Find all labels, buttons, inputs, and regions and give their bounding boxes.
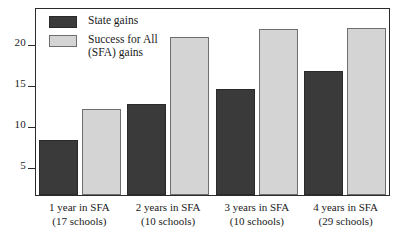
y-axis: 20 15 10 5 xyxy=(0,0,35,196)
x-axis-label: 2 years in SFA (10 schools) xyxy=(124,200,213,228)
bar-state-gains xyxy=(127,104,166,195)
bar-sfa-gains xyxy=(82,109,121,195)
y-tick-label: 5 xyxy=(20,160,26,171)
legend-item-state-gains: State gains xyxy=(49,14,219,28)
bar-sfa-gains xyxy=(259,29,298,195)
chart-legend: State gains Success for All (SFA) gains xyxy=(49,14,219,64)
bar-state-gains xyxy=(39,140,78,195)
y-tick-label: 15 xyxy=(15,78,26,89)
y-tick-mark xyxy=(28,127,35,128)
bar-group xyxy=(213,9,301,195)
bar-state-gains xyxy=(216,89,255,195)
y-tick-mark xyxy=(28,45,35,46)
x-axis-label: 3 years in SFA (10 schools) xyxy=(213,200,302,228)
bar-sfa-gains xyxy=(347,28,386,195)
legend-item-sfa-gains: Success for All (SFA) gains xyxy=(49,33,219,59)
legend-label: Success for All (SFA) gains xyxy=(88,33,158,59)
y-tick-mark xyxy=(28,168,35,169)
light-swatch-icon xyxy=(49,35,77,47)
x-axis-label: 1 year in SFA (17 schools) xyxy=(35,200,124,228)
bar-chart-figure: 20 15 10 5 State gains Success for All (… xyxy=(0,0,397,238)
y-tick-label: 10 xyxy=(15,119,26,130)
x-axis-labels: 1 year in SFA (17 schools)2 years in SFA… xyxy=(35,200,390,236)
bar-state-gains xyxy=(304,71,343,195)
y-tick-label: 20 xyxy=(15,37,26,48)
legend-label: State gains xyxy=(88,14,138,27)
x-axis-label: 4 years in SFA (29 schools) xyxy=(301,200,390,228)
y-tick-mark xyxy=(28,86,35,87)
bar-group xyxy=(301,9,389,195)
dark-swatch-icon xyxy=(49,16,77,28)
